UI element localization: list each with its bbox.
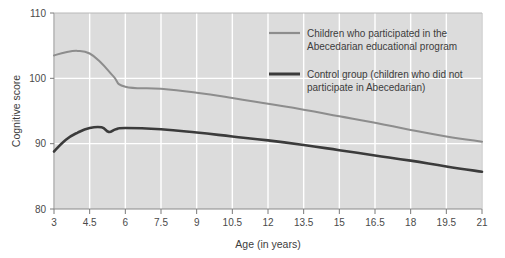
x-tick-label: 7.5: [154, 217, 168, 228]
y-tick-label: 80: [35, 204, 47, 215]
legend-label-treated-line2: Abecedarian educational program: [307, 41, 457, 52]
x-tick-label: 9: [194, 217, 200, 228]
x-tick-label: 4.5: [83, 217, 97, 228]
x-tick-label: 15: [334, 217, 346, 228]
legend-label-control-line2: participate in Abecedarian): [307, 82, 425, 93]
x-tick-label: 13.5: [294, 217, 314, 228]
x-tick-label: 16.5: [365, 217, 385, 228]
x-tick-label: 12: [262, 217, 274, 228]
x-tick-label: 10.5: [223, 217, 243, 228]
y-tick-label: 100: [29, 73, 46, 84]
legend-label-treated-line1: Children who participated in the: [307, 28, 448, 39]
y-tick-label: 90: [35, 138, 47, 149]
legend-label-control-line1: Control group (children who did not: [307, 69, 463, 80]
x-tick-label: 6: [123, 217, 129, 228]
y-tick-label: 110: [30, 8, 46, 19]
x-tick-label: 21: [476, 217, 488, 228]
x-tick-label: 19.5: [437, 217, 457, 228]
x-tick-label: 3: [51, 217, 57, 228]
x-tick-label: 18: [405, 217, 417, 228]
x-axis-title: Age (in years): [235, 238, 300, 250]
chart-canvas: 8090100110 34.567.5910.51213.51516.51819…: [0, 0, 505, 258]
y-axis-title: Cognitive score: [10, 75, 22, 148]
cognitive-score-line-chart: 8090100110 34.567.5910.51213.51516.51819…: [0, 0, 505, 258]
